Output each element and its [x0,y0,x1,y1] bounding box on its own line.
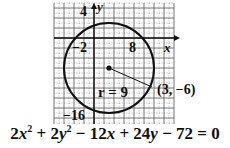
eq-term-4: + 24y [115,124,158,143]
eq-term-1: 2x2 [10,124,32,143]
eq-term-5: − 72 [158,124,193,143]
x-tick-label-neg2: −2 [72,40,87,55]
axes [54,3,180,124]
eq-term-3: − 12x [71,124,115,143]
eq-rhs: = 0 [193,124,220,143]
y-tick-label-neg16: −16 [63,108,85,123]
x-axis-label: x [163,40,171,55]
eq-term-2: + 2y2 [32,124,71,143]
grid-lines [54,3,174,124]
radius-label: r = 9 [98,84,128,100]
point-label: (3, −6) [157,82,196,98]
y-tick-label-4: 4 [80,4,87,19]
x-tick-label-8: 8 [129,40,136,55]
y-axis-label: y [95,0,103,14]
center-point [106,65,111,70]
circle-equation: 2x2 + 2y2 − 12x + 24y − 72 = 0 [0,124,230,144]
